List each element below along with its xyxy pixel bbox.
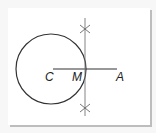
label-m: M — [72, 70, 82, 84]
label-c: C — [45, 70, 54, 84]
label-a: A — [115, 70, 124, 84]
construction-diagram: C M A — [0, 0, 156, 133]
